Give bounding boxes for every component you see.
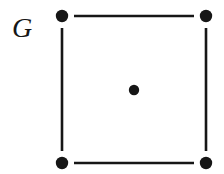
graph-vertex-bottom-right <box>200 157 212 169</box>
graph-vertex-center <box>129 85 139 95</box>
graph-figure: G <box>0 0 224 174</box>
graph-label-G: G <box>12 14 32 42</box>
vertices-group <box>56 10 212 169</box>
graph-vertex-top-right <box>200 10 212 22</box>
graph-vertex-bottom-left <box>56 157 68 169</box>
graph-vertex-top-left <box>56 10 68 22</box>
graph-canvas <box>0 0 224 174</box>
